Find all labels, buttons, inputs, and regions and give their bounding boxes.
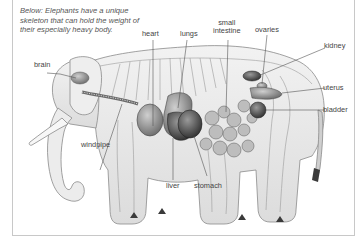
figure-caption: Below: Elephants have a unique skeleton … [20,6,140,35]
label-liver: liver [166,182,180,190]
brain-organ [71,72,89,84]
label-windpipe: windpipe [81,141,110,149]
label-kidney: kidney [324,42,345,50]
label-bladder: bladder [323,106,348,114]
label-brain: brain [34,61,50,69]
label-ovaries: ovaries [255,26,279,34]
label-lungs: lungs [180,30,198,38]
heart-organ [137,104,163,136]
stomach-organ [178,110,202,138]
label-small-intestine-line2: intestine [213,27,241,35]
label-uterus: uterus [323,84,344,92]
label-stomach: stomach [194,182,222,190]
label-small-intestine: small intestine [213,19,241,36]
label-heart: heart [142,30,159,38]
bladder-organ [250,102,266,118]
